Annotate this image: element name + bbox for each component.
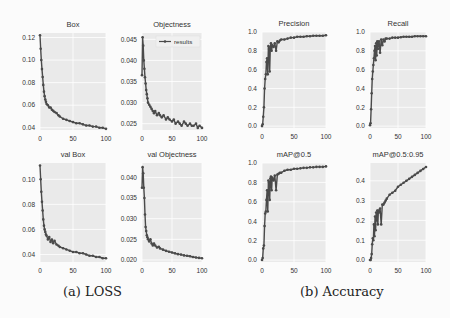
data-point (425, 166, 428, 169)
data-point (186, 124, 189, 127)
data-point (375, 219, 378, 222)
y-tick-label: 0.1 (356, 237, 365, 244)
data-point (275, 189, 278, 192)
data-point (408, 178, 411, 181)
data-point (174, 252, 177, 255)
data-point (171, 251, 174, 254)
y-tick-label: 0.08 (22, 201, 35, 208)
data-point (402, 35, 405, 38)
data-point (177, 120, 180, 123)
x-tick-label: 0 (38, 135, 42, 142)
data-point (274, 174, 277, 177)
data-point (397, 36, 400, 39)
data-point (293, 168, 296, 171)
y-tick-label: 1.0 (248, 28, 257, 35)
data-point (422, 35, 425, 38)
data-point (265, 199, 268, 202)
data-point (318, 166, 321, 169)
data-point (51, 238, 54, 241)
y-tick-label: 0.2 (248, 237, 257, 244)
data-point (268, 70, 271, 73)
data-point (62, 247, 65, 250)
panel-objectness: Objectness0501000.0250.0300.0350.0400.04… (121, 20, 208, 142)
data-point (156, 114, 159, 117)
data-point (143, 186, 146, 189)
data-point (174, 122, 177, 125)
data-point (39, 47, 42, 50)
data-point (306, 35, 309, 38)
panel-val-box: val Box0501000.040.060.080.10 (22, 150, 111, 274)
data-point (165, 250, 168, 253)
data-point (397, 185, 400, 188)
data-point (145, 89, 148, 92)
y-tick-label: 0.8 (248, 47, 257, 54)
data-point (374, 229, 377, 232)
x-tick-label: 0 (260, 267, 264, 274)
x-tick-label: 50 (290, 133, 298, 140)
data-point (53, 239, 56, 242)
data-point (62, 117, 65, 120)
data-point (40, 59, 43, 62)
data-point (45, 234, 48, 237)
data-point (68, 120, 71, 123)
data-point (49, 241, 52, 244)
data-point (105, 257, 108, 260)
data-point (144, 76, 147, 79)
data-point (195, 122, 198, 125)
data-point (373, 235, 376, 238)
data-point (266, 189, 269, 192)
data-point (141, 166, 144, 169)
data-point (380, 38, 383, 41)
data-point (154, 244, 157, 247)
data-point (180, 124, 183, 127)
data-point (369, 122, 372, 125)
panel-map-0-5: mAP@0.50501000.00.20.40.60.81.0 (248, 150, 332, 274)
panel-title: Recall (388, 19, 409, 28)
data-point (264, 78, 267, 81)
data-point (270, 189, 273, 192)
data-point (275, 50, 278, 53)
data-point (419, 170, 422, 173)
data-point (299, 35, 302, 38)
panel-box: Box0501000.040.060.080.100.12 (22, 20, 111, 142)
data-point (280, 171, 283, 174)
panel-title: mAP@0.5 (277, 150, 311, 159)
data-point (400, 36, 403, 39)
data-point (263, 244, 266, 247)
data-point (88, 124, 91, 127)
data-point (168, 250, 171, 253)
y-tick-label: 0.8 (248, 179, 257, 186)
data-point (141, 74, 144, 77)
data-point (283, 38, 286, 41)
x-tick-label: 0 (140, 267, 144, 274)
data-point (378, 211, 381, 214)
data-point (375, 54, 378, 57)
data-point (186, 255, 189, 258)
data-point (280, 38, 283, 41)
data-point (185, 122, 188, 125)
data-point (377, 48, 380, 51)
data-point (425, 35, 428, 38)
data-point (78, 122, 81, 125)
data-point (422, 168, 425, 171)
data-point (388, 193, 391, 196)
data-point (402, 182, 405, 185)
legend: results (156, 36, 200, 47)
x-tick-label: 100 (421, 133, 432, 140)
data-point (374, 45, 377, 48)
data-point (159, 114, 162, 117)
x-tick-label: 50 (168, 267, 176, 274)
data-point (381, 44, 384, 47)
y-tick-label: 0.10 (22, 176, 35, 183)
y-tick-label: 1.0 (356, 28, 365, 35)
data-point (59, 115, 62, 118)
data-point (40, 191, 43, 194)
x-tick-label: 50 (290, 267, 298, 274)
data-point (266, 210, 269, 213)
x-tick-label: 50 (394, 267, 402, 274)
y-tick-label: 0.6 (248, 198, 257, 205)
x-tick-label: 100 (101, 267, 112, 274)
data-point (144, 226, 147, 229)
panel-map-0-5-0-95: mAP@0.5:0.950501000.00.10.20.30.4 (356, 150, 432, 274)
data-point (296, 168, 299, 171)
